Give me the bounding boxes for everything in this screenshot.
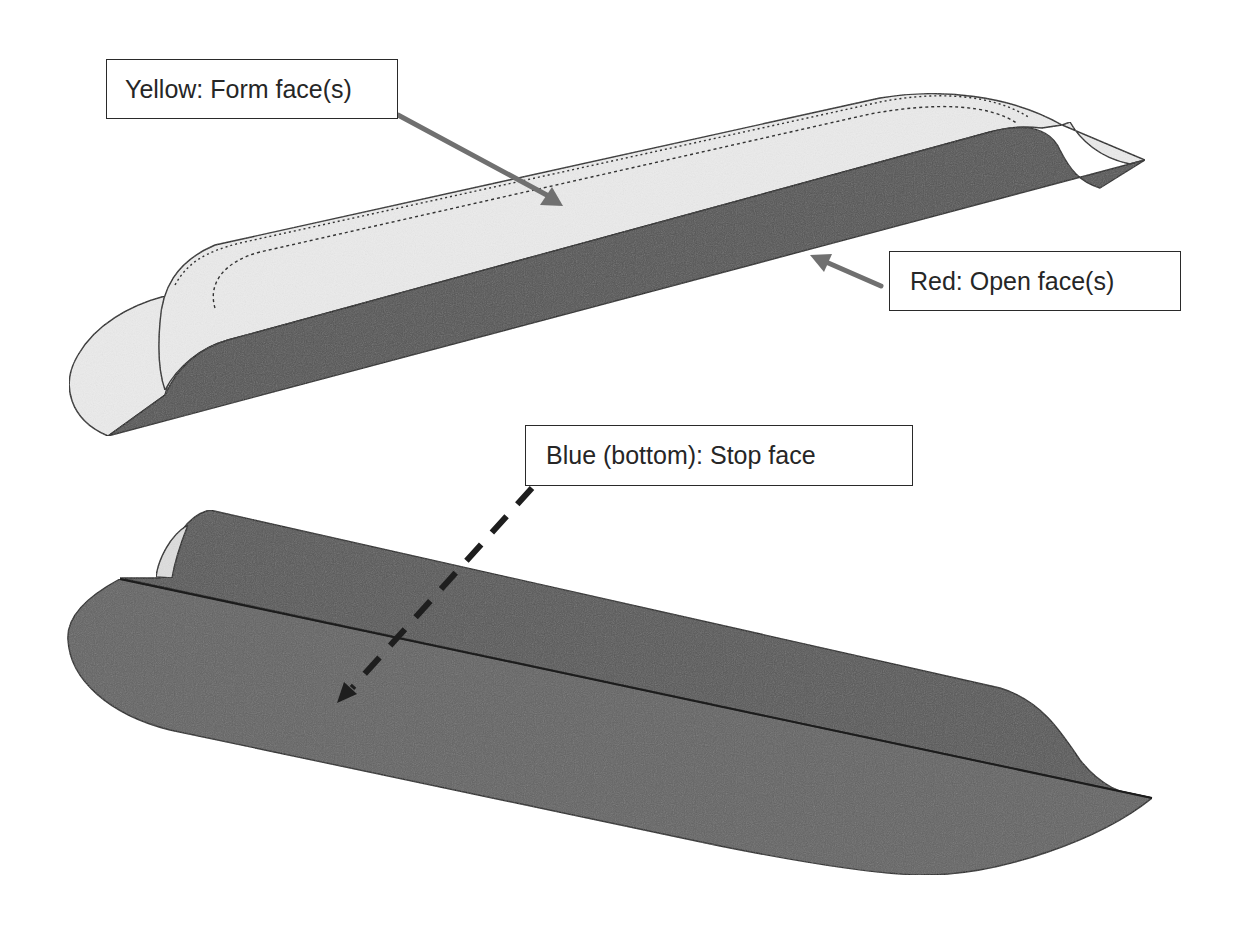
- form-face-callout: Yellow: Form face(s): [106, 59, 398, 119]
- top-right-end-flange: [1062, 122, 1145, 164]
- open-face-pointer-arrow: [826, 262, 881, 286]
- form-face-callout-label: Yellow: Form face(s): [125, 77, 352, 102]
- open-face-callout-label: Red: Open face(s): [910, 269, 1114, 294]
- bottom-part: [68, 510, 1152, 875]
- open-face-callout: Red: Open face(s): [889, 251, 1181, 311]
- stop-face-callout-label: Blue (bottom): Stop face: [546, 443, 816, 468]
- stop-face-callout: Blue (bottom): Stop face: [525, 425, 913, 486]
